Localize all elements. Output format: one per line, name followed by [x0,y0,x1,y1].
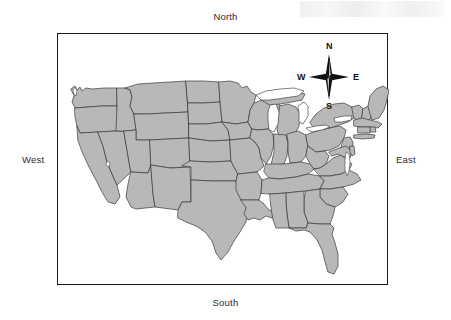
state-connecticut [358,127,370,133]
compass-star-icon [309,54,349,100]
state-ohio [287,131,308,163]
direction-label-east: East [396,155,416,165]
direction-label-south: South [0,298,451,308]
state-colorado [150,138,190,168]
state-maine [368,86,389,120]
compass-label-west: W [297,73,306,82]
state-long-island [354,134,375,139]
state-rhode-island [370,127,376,132]
state-kansas [189,138,231,162]
direction-label-north: North [0,12,451,22]
state-oregon [75,106,118,133]
state-mississippi [270,193,289,228]
state-massachusetts [354,118,382,128]
compass-point-west [309,74,329,80]
direction-label-west: West [22,155,44,165]
state-wyoming [134,112,189,140]
compass-label-south: S [326,102,332,111]
state-south-dakota [188,102,222,124]
map-figure: North South West East [0,0,451,320]
state-washington [71,86,117,108]
compass-point-east [329,74,349,80]
state-north-dakota [186,81,220,103]
state-montana [125,81,188,114]
state-louisiana [241,200,275,220]
map-frame: N S W E [57,33,388,285]
state-arkansas [236,172,262,200]
compass-rose: N S W E [296,40,362,114]
compass-label-north: N [326,42,333,51]
compass-label-east: E [353,73,359,82]
state-florida [289,223,338,274]
